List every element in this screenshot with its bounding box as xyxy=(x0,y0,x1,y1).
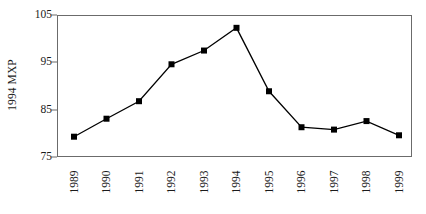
series-line-1994-mxp xyxy=(74,28,399,137)
y-axis-title-text: 1994 MXP xyxy=(6,59,18,111)
x-tick-label-text: 1992 xyxy=(165,171,177,194)
data-point-1994 xyxy=(234,25,240,31)
y-tick-label-75: 75 xyxy=(24,151,52,163)
x-tick-label-1989: 1989 xyxy=(66,160,80,212)
x-tick-label-text: 1998 xyxy=(360,171,372,194)
series-canvas xyxy=(58,16,413,158)
x-tick-label-text: 1995 xyxy=(262,171,274,194)
y-tick-label-85: 85 xyxy=(24,104,52,116)
x-axis-tick-labels: 1989199019911992199319941995199619971998… xyxy=(57,158,412,214)
x-tick-label-1998: 1998 xyxy=(359,160,373,212)
x-tick-label-1997: 1997 xyxy=(326,160,340,212)
y-tick-label-105: 105 xyxy=(24,9,52,21)
x-tick-label-text: 1993 xyxy=(197,171,209,194)
data-point-1997 xyxy=(331,127,337,133)
x-tick-label-text: 1990 xyxy=(100,171,112,194)
x-tick-label-1990: 1990 xyxy=(99,160,113,212)
x-tick-label-text: 1996 xyxy=(295,171,307,194)
data-point-1992 xyxy=(169,61,175,67)
data-point-1991 xyxy=(136,98,142,104)
x-tick-label-1994: 1994 xyxy=(229,160,243,212)
x-tick-label-1995: 1995 xyxy=(261,160,275,212)
x-tick-label-text: 1991 xyxy=(132,171,144,194)
x-tick-label-1992: 1992 xyxy=(164,160,178,212)
data-point-1993 xyxy=(201,48,207,54)
data-point-1996 xyxy=(299,124,305,130)
line-chart-figure: 1994 MXP 105 95 85 75 198919901991199219… xyxy=(0,0,426,214)
data-point-1999 xyxy=(396,132,402,138)
data-point-1995 xyxy=(266,88,272,94)
data-point-1989 xyxy=(71,134,77,140)
series-markers xyxy=(71,25,402,140)
x-tick-label-1993: 1993 xyxy=(196,160,210,212)
y-tick-label-95: 95 xyxy=(24,57,52,69)
y-axis-tick-labels: 105 95 85 75 xyxy=(22,0,52,214)
x-tick-label-text: 1997 xyxy=(327,171,339,194)
data-point-1998 xyxy=(364,118,370,124)
x-tick-label-text: 1999 xyxy=(392,171,404,194)
y-axis-title: 1994 MXP xyxy=(0,0,24,170)
x-tick-label-1999: 1999 xyxy=(391,160,405,212)
x-tick-label-text: 1994 xyxy=(230,171,242,194)
plot-area xyxy=(57,15,412,157)
x-tick-label-text: 1989 xyxy=(67,171,79,194)
x-tick-label-1991: 1991 xyxy=(131,160,145,212)
x-tick-label-1996: 1996 xyxy=(294,160,308,212)
data-point-1990 xyxy=(104,116,110,122)
